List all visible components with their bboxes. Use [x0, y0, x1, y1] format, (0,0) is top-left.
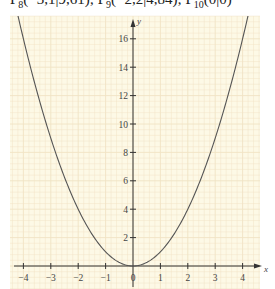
svg-text:10: 10	[119, 120, 129, 130]
svg-text:16: 16	[119, 34, 129, 44]
svg-text:6: 6	[123, 176, 128, 186]
svg-text:1: 1	[158, 273, 163, 283]
svg-text:14: 14	[119, 63, 129, 73]
svg-text:12: 12	[119, 91, 129, 101]
svg-text:−4: −4	[18, 273, 28, 283]
svg-text:0: 0	[131, 273, 136, 283]
svg-text:x: x	[263, 264, 268, 274]
svg-text:4: 4	[123, 205, 128, 215]
svg-text:−3: −3	[46, 273, 56, 283]
svg-text:−1: −1	[101, 273, 111, 283]
svg-text:4: 4	[240, 273, 245, 283]
svg-text:8: 8	[123, 148, 128, 158]
parabola-chart: −4−3−2−101234246810121416xy	[0, 0, 275, 289]
svg-text:2: 2	[185, 273, 190, 283]
svg-text:3: 3	[213, 273, 218, 283]
svg-text:y: y	[136, 16, 141, 26]
svg-text:−2: −2	[73, 273, 83, 283]
svg-text:2: 2	[123, 233, 128, 243]
